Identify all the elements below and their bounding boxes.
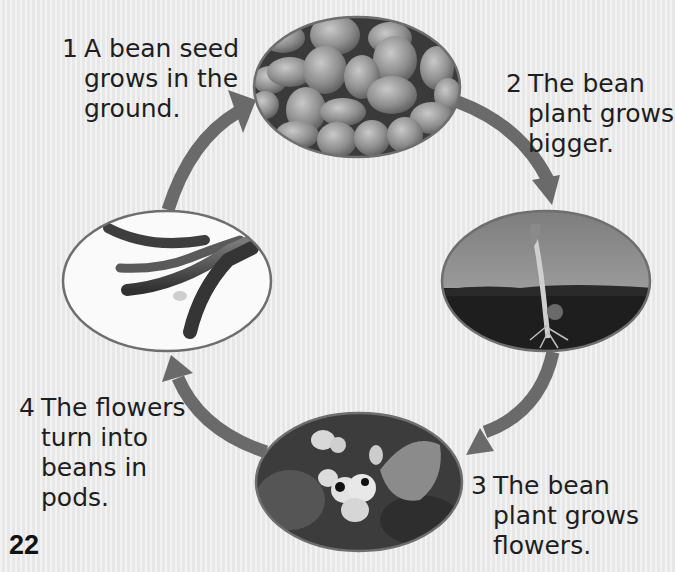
stage-4-text-line: The flowers <box>41 393 186 423</box>
bean-pods-photo <box>60 208 275 354</box>
arrowhead-icon <box>162 355 193 382</box>
bean-seeds-photo <box>250 14 465 160</box>
stage-3-text-line: plant grows <box>493 501 639 531</box>
bean-flowers-photo <box>254 410 466 556</box>
page-number: 22 <box>9 530 39 561</box>
stage-3-text-line: The bean <box>493 471 639 501</box>
stage-2-text-line: bigger. <box>528 129 674 159</box>
seedling-photo <box>440 208 655 356</box>
stage-4-text-line: beans in <box>41 453 186 483</box>
stage-1-text-line: grows in the <box>84 64 239 94</box>
stage-1-number: 1 <box>62 34 78 64</box>
life-cycle-diagram: 1 A bean seed grows in the ground. 2 The… <box>0 0 675 572</box>
stage-3-number: 3 <box>471 471 487 501</box>
arrow-seedling-to-flowers <box>485 352 553 432</box>
stage-1-text-line: A bean seed <box>84 34 239 64</box>
stage-2-number: 2 <box>506 69 522 99</box>
stage-3-text-line: flowers. <box>493 531 639 561</box>
stage-4-text-line: pods. <box>41 483 186 513</box>
stage-4-number: 4 <box>19 393 35 423</box>
stage-4-text-line: turn into <box>41 423 186 453</box>
stage-2-text-line: plant grows <box>528 99 674 129</box>
stage-2-text-line: The bean <box>528 69 674 99</box>
arrowhead-icon <box>532 175 560 205</box>
stage-4-label: 4 The flowers turn into beans in pods. <box>41 393 186 513</box>
stage-2-label: 2 The bean plant grows bigger. <box>528 69 674 159</box>
stage-3-label: 3 The bean plant grows flowers. <box>493 471 639 561</box>
stage-1-label: 1 A bean seed grows in the ground. <box>84 34 239 124</box>
arrow-pods-to-seeds <box>168 112 238 210</box>
stage-1-text-line: ground. <box>84 94 239 124</box>
arrow-flowers-to-pods <box>178 378 266 452</box>
